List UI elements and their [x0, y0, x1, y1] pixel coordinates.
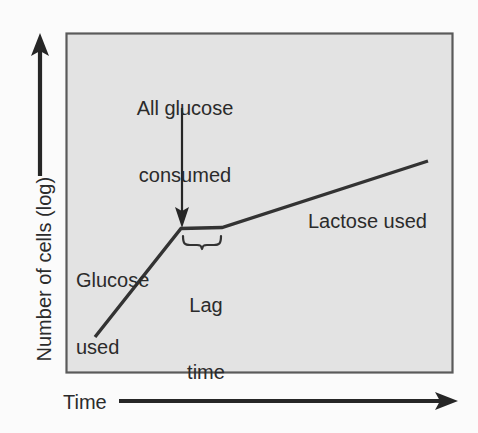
annotation-all-glucose-line2: consumed: [118, 164, 252, 186]
annotation-all-glucose-line1: All glucose: [118, 97, 252, 119]
x-axis-label: Time: [63, 391, 107, 413]
annotation-all-glucose-consumed: All glucose consumed: [118, 52, 252, 231]
diauxic-growth-figure: All glucose consumed Glucose used Lag ti…: [0, 0, 478, 433]
label-lactose-used: Lactose used: [308, 210, 427, 232]
label-lag-time-line2: time: [180, 361, 232, 383]
label-glucose-used-line1: Glucose: [76, 269, 176, 291]
label-lag-time: Lag time: [180, 249, 232, 428]
label-glucose-used: Glucose used: [76, 224, 176, 403]
y-axis-label: Number of cells (log): [33, 164, 55, 374]
label-glucose-used-line2: used: [76, 336, 176, 358]
label-lag-time-line1: Lag: [180, 294, 232, 316]
y-axis-arrow: [31, 33, 49, 176]
